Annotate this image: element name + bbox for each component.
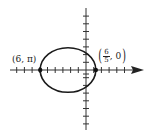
label-right-open-paren: (: [98, 48, 102, 64]
label-right-rest: , 0: [110, 51, 121, 61]
point-left-vertex: [38, 68, 42, 72]
polar-ellipse-chart: [0, 0, 153, 136]
label-right-close-paren: ): [122, 48, 126, 64]
label-right-point: (65, 0): [97, 48, 127, 64]
fraction-denominator: 5: [104, 57, 108, 64]
label-left-point: (6, π): [12, 55, 36, 64]
point-right-vertex: [94, 68, 98, 72]
